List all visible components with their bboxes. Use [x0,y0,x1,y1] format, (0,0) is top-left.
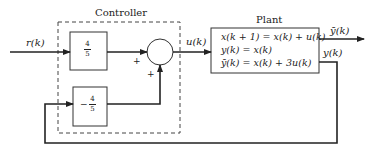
plant-equation-output-bar: ȳ(k) = x(k) + 3u(k) [221,58,311,68]
forward-gain-numerator: 4 [85,41,89,48]
plant-equation-state: x(k + 1) = x(k) + u(k) [221,32,325,42]
controller-title: Controller [95,8,147,18]
sum-sign-bottom: + [147,70,155,79]
summing-junction [147,39,173,65]
forward-gain-value: 4 5 [84,41,91,58]
plant-title: Plant [256,15,282,25]
feedback-gain-denominator: 5 [90,106,94,113]
feedback-gain-value: 4 5 [89,96,96,113]
control-label: u(k) [186,37,206,47]
reference-label: r(k) [26,38,45,48]
sum-sign-left: + [133,57,141,66]
block-diagram-canvas [0,0,372,154]
plant-equation-output: y(k) = x(k) [221,45,272,55]
forward-gain-denominator: 5 [85,51,89,58]
feedback-gain-sign: − [80,100,88,109]
feedback-gain-numerator: 4 [90,96,94,103]
output-bar-label: ȳ(k) [330,26,350,36]
output-label: y(k) [323,48,343,58]
